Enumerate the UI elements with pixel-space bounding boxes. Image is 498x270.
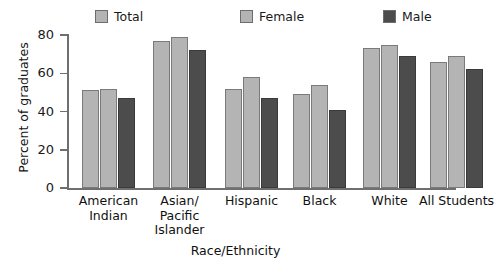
bar-group <box>293 35 346 188</box>
bar-female-1 <box>171 37 188 188</box>
square-swatch-icon <box>240 10 253 23</box>
bar-total-0 <box>82 90 99 188</box>
y-axis-tick-label: 0 <box>22 181 54 194</box>
bar-total-3 <box>293 94 310 188</box>
bar-total-1 <box>153 41 170 188</box>
y-axis-title: Percent of graduates <box>16 38 31 178</box>
y-axis-tick <box>60 111 67 113</box>
bar-total-4 <box>363 48 380 188</box>
legend-label-female: Female <box>259 10 304 23</box>
bar-group <box>82 35 135 188</box>
bar-male-4 <box>399 56 416 188</box>
y-axis-tick <box>60 34 67 36</box>
bar-group <box>430 35 483 188</box>
bar-group <box>363 35 416 188</box>
x-axis-title: Race/Ethnicity <box>0 243 471 258</box>
y-axis-tick <box>60 149 67 151</box>
x-axis-line <box>67 188 456 190</box>
chart-legend: Total Female Male <box>0 8 471 30</box>
bar-group <box>153 35 206 188</box>
y-axis-tick <box>60 187 67 189</box>
bar-female-3 <box>311 85 328 188</box>
legend-label-male: Male <box>402 10 432 23</box>
bar-male-2 <box>261 98 278 188</box>
legend-item-female: Female <box>240 10 304 23</box>
legend-item-total: Total <box>95 10 143 23</box>
y-axis-tick <box>60 73 67 75</box>
square-swatch-icon <box>95 10 108 23</box>
bar-total-5 <box>430 62 447 188</box>
bar-female-2 <box>243 77 260 188</box>
bar-female-0 <box>100 89 117 188</box>
bar-male-0 <box>118 98 135 188</box>
legend-label-total: Total <box>114 10 143 23</box>
x-axis-category-label: All Students <box>408 194 498 209</box>
square-swatch-icon <box>383 10 396 23</box>
legend-item-male: Male <box>383 10 432 23</box>
bar-total-2 <box>225 89 242 188</box>
bar-male-5 <box>466 69 483 188</box>
bar-male-3 <box>329 110 346 188</box>
bar-group <box>225 35 278 188</box>
bar-female-4 <box>381 45 398 188</box>
plot-area <box>67 35 453 188</box>
bar-female-5 <box>448 56 465 188</box>
bar-male-1 <box>189 50 206 188</box>
